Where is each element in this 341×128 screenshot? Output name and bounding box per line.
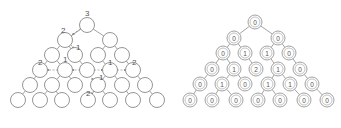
tree-edge <box>45 91 48 94</box>
tree-edge <box>138 76 141 79</box>
tree-node: 0 <box>238 77 252 91</box>
tree-node: 0 <box>216 46 230 60</box>
node-value: 0 <box>198 81 202 88</box>
tree-edge <box>80 61 83 64</box>
tree-node: 0 <box>183 93 197 107</box>
depth-label: 2 <box>61 26 66 35</box>
node-value: 0 <box>276 35 280 42</box>
tree-edge <box>204 74 207 78</box>
node-value: 1 <box>266 81 270 88</box>
node-value: 0 <box>234 97 238 104</box>
tree-node: 0 <box>282 46 296 60</box>
tree-node <box>103 33 118 48</box>
tree-edge <box>45 61 48 64</box>
tree-edge <box>271 44 274 48</box>
tree-node: 0 <box>205 93 219 107</box>
tree-node <box>80 63 95 78</box>
tree-edge <box>262 90 265 94</box>
node-value: 0 <box>298 66 302 73</box>
node-value: 0 <box>210 97 214 104</box>
tree-node: 0 <box>305 77 319 91</box>
tree-edge <box>261 26 273 34</box>
node-value: 1 <box>232 66 236 73</box>
tree-node: 0 <box>293 62 307 76</box>
node-value: 1 <box>265 50 269 57</box>
node-value: 0 <box>325 97 329 104</box>
arrow-icon <box>72 29 80 35</box>
node-value: 0 <box>278 97 282 104</box>
depth-label: 2 <box>38 58 43 67</box>
tree-node <box>68 78 83 93</box>
node-value: 1 <box>220 81 224 88</box>
tree-node <box>91 48 106 63</box>
tree-node: 1 <box>271 62 285 76</box>
node-value: 0 <box>188 97 192 104</box>
tree-edge <box>57 61 60 65</box>
node-value: 0 <box>256 97 260 104</box>
tree-edge <box>23 91 26 94</box>
tree-edge <box>238 75 241 79</box>
tree-node: 0 <box>271 31 285 45</box>
tree-edge <box>227 44 230 48</box>
node-value: 1 <box>288 81 292 88</box>
tree-node <box>138 78 153 93</box>
depth-label: 1 <box>63 55 68 64</box>
tree-edge <box>115 76 118 79</box>
tree-node <box>55 93 70 108</box>
tree-node: 2 <box>249 62 263 76</box>
tree-node: 0 <box>251 93 265 107</box>
tree-edge <box>103 61 106 64</box>
tree-node: 1 <box>227 62 241 76</box>
tree-edge <box>238 44 241 48</box>
node-value: 0 <box>243 81 247 88</box>
tree-edge <box>271 59 274 63</box>
tree-edge <box>103 91 106 94</box>
tree-edge <box>57 76 60 80</box>
depth-label: 1 <box>76 43 81 52</box>
tree-edge <box>295 89 300 94</box>
depth-label: 1 <box>108 58 113 67</box>
tree-edge <box>216 90 219 94</box>
tree-diagram: 321211212 0000110012100101100000000 <box>0 0 341 128</box>
tree-node: 0 <box>205 62 219 76</box>
node-value: 0 <box>253 19 257 26</box>
tree-edge <box>240 26 250 34</box>
tree-node <box>45 48 60 63</box>
right-tree-edges <box>194 26 323 95</box>
tree-edge <box>71 29 81 36</box>
tree-edge <box>272 75 274 78</box>
depth-label: 2 <box>132 58 137 67</box>
tree-node <box>103 93 118 108</box>
node-value: 0 <box>232 35 236 42</box>
tree-node: 0 <box>229 93 243 107</box>
tree-edge <box>317 89 322 95</box>
tree-node <box>115 78 130 93</box>
tree-edge <box>103 46 106 49</box>
tree-node: 1 <box>261 77 275 91</box>
tree-node: 1 <box>260 46 274 60</box>
tree-edge <box>194 90 197 94</box>
tree-node: 1 <box>215 77 229 91</box>
tree-node <box>58 63 73 78</box>
node-value: 0 <box>287 50 291 57</box>
tree-node: 1 <box>238 46 252 60</box>
tree-node: 0 <box>297 93 311 107</box>
node-value: 1 <box>243 50 247 57</box>
node-value: 2 <box>254 66 258 73</box>
tree-edge <box>249 59 252 63</box>
tree-node <box>80 18 95 33</box>
tree-edge <box>227 89 232 94</box>
tree-edge <box>227 59 230 63</box>
tree-edge <box>126 61 128 64</box>
tree-node <box>11 93 26 108</box>
right-tree-nodes: 0000110012100101100000000 <box>183 15 334 107</box>
tree-edge <box>293 59 296 63</box>
tree-edge <box>282 44 285 48</box>
tree-edge <box>272 90 276 95</box>
tree-node <box>150 93 165 108</box>
tree-node <box>45 78 60 93</box>
tree-edge <box>93 29 103 36</box>
node-value: 0 <box>210 66 214 73</box>
tree-node: 0 <box>320 93 334 107</box>
tree-edge <box>216 59 219 63</box>
